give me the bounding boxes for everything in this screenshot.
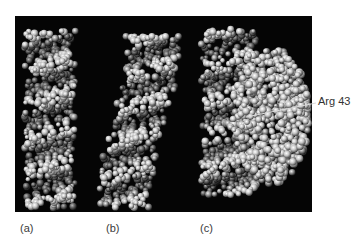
panel-label-a: (a) — [20, 222, 33, 234]
panel-label-c: (c) — [200, 222, 213, 234]
model-a-dna-helix — [21, 28, 79, 211]
arg43-annotation: Arg 43 — [318, 95, 350, 107]
model-c-dna-protein-complex — [198, 26, 312, 198]
model-b-bent-dna-helix — [97, 33, 182, 211]
molecular-models-image — [15, 16, 312, 212]
panel-label-b: (b) — [106, 222, 119, 234]
figure-panel — [15, 16, 312, 212]
